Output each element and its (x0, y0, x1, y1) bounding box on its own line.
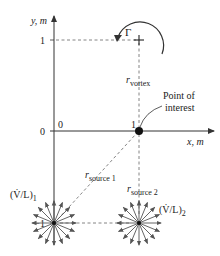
r-vortex-label: rvortex (126, 74, 150, 88)
source-2-center (137, 221, 141, 225)
x-axis-label: x, m (186, 136, 204, 147)
r-source2-label: rsource 2 (127, 183, 158, 197)
source-2-strength-label: (V̇/L)2 (159, 204, 186, 218)
axes (50, 16, 214, 245)
origin-label: 0 (58, 119, 63, 130)
y-tick-0-label: 0 (40, 126, 45, 137)
point-of-interest-leader (140, 106, 162, 127)
r-source1-label: rsource 1 (85, 169, 116, 183)
point-of-interest-dot (135, 127, 143, 135)
source-1-strength-label: (V̇/L)1 (10, 189, 37, 203)
y-tick-1-label: 1 (40, 35, 45, 46)
x-tick-1-label: 1 (131, 119, 136, 130)
flow-diagram: y, m x, m 1 0 −1 0 1 Γ rvortex Point of … (0, 0, 220, 256)
source-1-center (52, 221, 56, 225)
circulation-arrowhead-icon (114, 35, 122, 42)
point-of-interest-label-1: Point of (163, 90, 196, 101)
y-axis-label: y, m (30, 15, 47, 26)
point-of-interest-label-2: interest (165, 102, 195, 113)
circulation-symbol: Γ (125, 26, 131, 38)
